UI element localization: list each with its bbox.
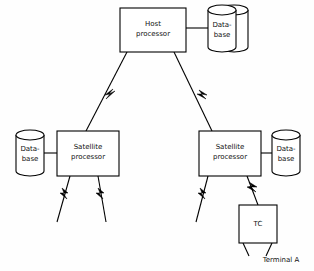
node-left-database[interactable]: Data- base — [16, 130, 44, 176]
lightning-bolt-icon — [197, 90, 207, 99]
database-cylinder-icon — [16, 130, 44, 176]
link-tc-terminal-a-1 — [243, 243, 249, 256]
link-left-satellite-terminal-2 — [98, 176, 106, 222]
right-satellite-label-line1: Satellite — [216, 143, 245, 151]
tc-label: TC — [253, 220, 263, 228]
left-database-label-line1: Data- — [20, 145, 40, 153]
node-right-satellite-processor[interactable]: Satellite processor — [199, 131, 261, 176]
right-database-label-line2: base — [278, 155, 295, 163]
diagram-canvas: Host processor Data- base Data- — [0, 0, 314, 271]
link-right-satellite-terminal-1 — [196, 176, 208, 222]
link-right-satellite-to-tc — [247, 176, 258, 205]
database-cylinder-icon — [272, 130, 300, 176]
node-host-processor[interactable]: Host processor — [120, 8, 186, 52]
left-satellite-label-line2: processor — [71, 153, 105, 161]
right-satellite-label-line2: processor — [213, 153, 247, 161]
lightning-bolt-icon — [96, 188, 104, 199]
link-host-to-left-satellite — [86, 52, 127, 131]
node-right-database[interactable]: Data- base — [272, 130, 300, 176]
host-database-label-line2: base — [214, 31, 231, 39]
host-processor-label-line1: Host — [145, 20, 161, 28]
node-tc[interactable]: TC — [239, 205, 277, 243]
right-database-label-line1: Data- — [276, 145, 296, 153]
link-left-satellite-terminal-1 — [57, 176, 70, 222]
host-processor-label-line2: processor — [136, 30, 170, 38]
host-database-label-line1: Data- — [212, 21, 232, 29]
left-database-label-line2: base — [22, 155, 39, 163]
terminal-a-label: Terminal A — [262, 256, 300, 264]
link-tc-terminal-a-2 — [266, 243, 272, 256]
link-host-to-right-satellite — [174, 52, 212, 131]
left-satellite-label-line1: Satellite — [74, 143, 103, 151]
node-host-database[interactable]: Data- base — [208, 5, 248, 52]
node-left-satellite-processor[interactable]: Satellite processor — [57, 131, 119, 176]
